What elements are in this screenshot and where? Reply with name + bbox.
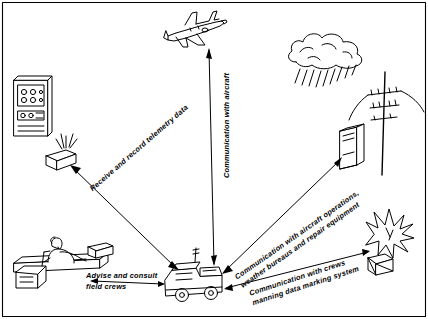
link-truck-aircraft [209,50,214,264]
label-advise-and-consult-field-crews: Advise and consult field crews [86,270,157,292]
label-communication-with-aircraft: Communication with aircraft [222,73,231,178]
antenna-unit-icon [46,134,77,170]
label-line: field crews [86,281,157,292]
diagram-artwork [0,0,428,319]
diagram-canvas: Communication with aircraft Receive and … [0,0,428,319]
rain-cloud-icon [289,34,362,87]
instrument-rack-icon [14,76,52,136]
airplane-icon [164,11,227,47]
label-line: Communication with aircraft [222,73,231,178]
equipment-cabinet-icon [340,124,364,169]
blast-and-crate-icon [366,209,414,275]
label-line: Advise and consult [86,270,157,281]
